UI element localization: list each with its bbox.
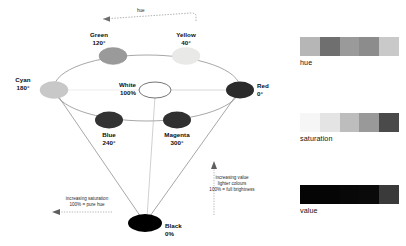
swatch-caption-saturation: saturation (300, 134, 399, 144)
swatch-saturation-2 (340, 113, 360, 132)
swatch-value-3 (359, 185, 379, 204)
node-label-red: Red 0° (257, 82, 269, 97)
node-white[interactable] (139, 82, 171, 98)
node-label-blue-name: Blue (102, 131, 116, 138)
swatch-caption-value: value (300, 206, 399, 216)
saturation-annotation-line2: 100% = pure hue (44, 202, 130, 208)
node-black[interactable] (128, 214, 162, 232)
node-label-cyan-value: 180° (5, 84, 41, 92)
saturation-annotation: increasing saturation 100% = pure hue (44, 196, 130, 208)
swatch-value-1 (320, 185, 340, 204)
node-label-green: Green 120° (78, 31, 120, 46)
node-label-cyan-name: Cyan (15, 76, 30, 83)
swatch-group-hue: hue (300, 37, 399, 68)
node-label-black: Black 0% (165, 222, 182, 237)
saturation-arrow (52, 209, 112, 215)
swatch-hue-1 (320, 37, 340, 56)
hue-axis-label: hue (137, 8, 145, 13)
node-yellow[interactable] (172, 48, 200, 65)
node-label-magenta-name: Magenta (164, 131, 189, 138)
swatch-saturation-4 (379, 113, 399, 132)
swatch-hue-2 (340, 37, 360, 56)
swatch-hue-4 (379, 37, 399, 56)
node-label-cyan: Cyan 180° (5, 76, 41, 91)
swatch-bar-saturation[interactable] (300, 113, 399, 132)
node-green[interactable] (99, 48, 127, 65)
node-label-white-name: White (119, 81, 136, 88)
node-label-black-value: 0% (165, 230, 182, 238)
hsv-cone-diagram (0, 0, 290, 246)
node-label-red-name: Red (257, 82, 269, 89)
node-label-white-value: 100% (104, 89, 136, 97)
swatch-value-4 (379, 185, 399, 204)
swatch-value-2 (340, 185, 360, 204)
swatch-caption-hue: hue (300, 58, 399, 68)
node-label-green-value: 120° (78, 39, 120, 47)
swatch-value-0 (300, 185, 320, 204)
node-label-blue: Blue 240° (89, 131, 129, 146)
hue-arrow (103, 13, 196, 22)
node-label-yellow: Yellow 40° (162, 31, 210, 46)
swatch-saturation-0 (300, 113, 320, 132)
swatch-group-value: value (300, 185, 399, 216)
node-label-yellow-name: Yellow (176, 31, 196, 38)
node-cyan[interactable] (40, 82, 68, 99)
swatch-hue-0 (300, 37, 320, 56)
figure-canvas: hue Green 120° Yellow 40° Cyan 180° Red … (0, 0, 406, 246)
value-axis-line (147, 96, 155, 218)
node-label-red-value: 0° (257, 90, 269, 98)
swatch-hue-3 (359, 37, 379, 56)
swatch-saturation-1 (320, 113, 340, 132)
node-label-green-name: Green (90, 31, 108, 38)
value-annotation-line3: 100% = full brightness (186, 187, 278, 193)
swatch-bar-hue[interactable] (300, 37, 399, 56)
value-annotation: increasing value lighter colours 100% = … (186, 175, 278, 193)
node-blue[interactable] (95, 112, 123, 129)
node-label-black-name: Black (165, 222, 182, 229)
node-label-magenta: Magenta 300° (153, 131, 201, 146)
swatch-saturation-3 (359, 113, 379, 132)
node-label-yellow-value: 40° (162, 39, 210, 47)
node-magenta[interactable] (163, 112, 191, 129)
node-label-white: White 100% (104, 81, 136, 96)
swatch-bar-value[interactable] (300, 185, 399, 204)
node-label-blue-value: 240° (89, 139, 129, 147)
swatch-group-saturation: saturation (300, 113, 399, 144)
node-label-magenta-value: 300° (153, 139, 201, 147)
node-red[interactable] (226, 82, 254, 99)
